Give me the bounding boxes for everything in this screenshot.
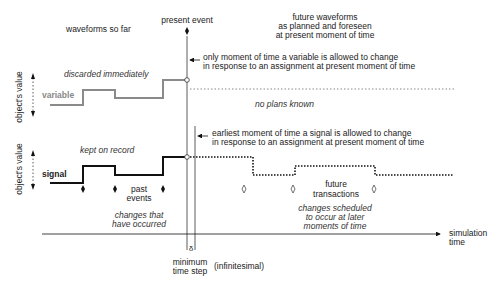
signal-waveform-future <box>190 157 453 175</box>
signal-present-point-icon <box>185 155 190 160</box>
past-event-diamond-icon <box>113 185 117 193</box>
future-transactions-note-3: moments of time <box>290 222 380 232</box>
future-transaction-diamond-icon <box>372 185 376 193</box>
arrow-down-icon <box>31 184 35 190</box>
time-axis-label-2: time <box>449 238 465 248</box>
min-time-step-note: (infinitesimal) <box>214 262 264 272</box>
signal-callout-line2: in response to an assignment at present … <box>212 138 424 148</box>
signal-waveform-past <box>50 157 187 183</box>
heading-waveforms-so-far: waveforms so far <box>66 25 131 35</box>
signal-axis-label: object's value <box>14 142 24 196</box>
delta-symbol: δ <box>189 244 193 254</box>
present-event-diamond-icon <box>185 27 189 35</box>
future-transactions-label-2: transactions <box>301 190 371 200</box>
min-time-step-label-2: time step <box>170 267 210 277</box>
signal-label: signal <box>42 170 67 180</box>
variable-axis-label: object's value <box>14 70 24 124</box>
past-event-diamond-icon <box>81 185 85 193</box>
arrow-down-icon <box>31 111 35 117</box>
past-events-note-2: have occurred <box>104 220 174 230</box>
variable-present-point-icon <box>185 78 190 83</box>
arrow-up-icon <box>31 150 35 156</box>
variable-past-note: discarded immediately <box>64 70 149 80</box>
variable-future-note: no plans known <box>255 100 314 110</box>
future-transaction-diamond-icon <box>242 185 246 193</box>
variable-label: variable <box>42 91 74 101</box>
arrow-up-icon <box>31 73 35 79</box>
future-transaction-diamond-icon <box>291 185 295 193</box>
variable-callout-line2: in response to an assignment at present … <box>203 62 415 72</box>
heading-present-event: present event <box>160 16 214 26</box>
past-event-diamond-icon <box>161 185 165 193</box>
past-events-label-2: events <box>119 194 159 204</box>
heading-future-waveforms-3: at present moment of time <box>250 31 400 41</box>
signal-past-note: kept on record <box>80 146 134 156</box>
